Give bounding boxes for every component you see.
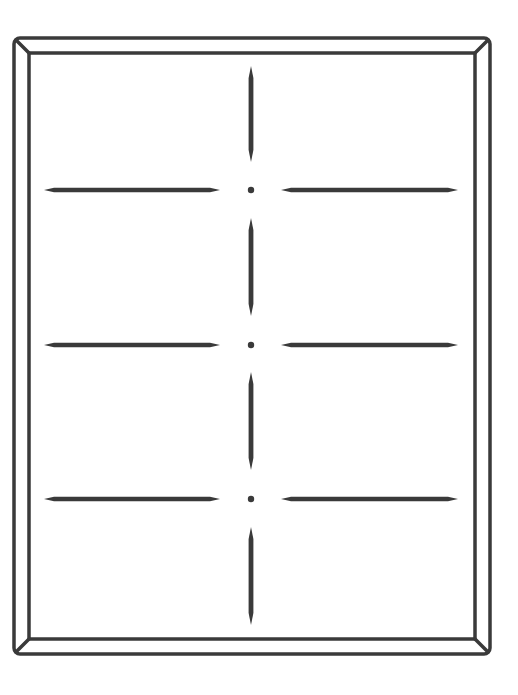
- vertical-divider: [249, 218, 254, 316]
- center-dot: [248, 496, 254, 502]
- horizontal-divider: [281, 343, 458, 347]
- center-dot: [248, 187, 254, 193]
- frame-corner-miter: [16, 40, 29, 53]
- frame-corner-miter: [475, 40, 488, 53]
- frame-corner-miter: [16, 639, 29, 652]
- horizontal-divider: [281, 497, 458, 501]
- frame-diagram: [0, 0, 518, 695]
- horizontal-divider: [44, 343, 220, 347]
- vertical-divider: [249, 527, 254, 625]
- vertical-divider: [249, 372, 254, 470]
- horizontal-divider: [281, 188, 458, 192]
- horizontal-divider: [44, 497, 220, 501]
- center-dot: [248, 342, 254, 348]
- horizontal-divider: [44, 188, 220, 192]
- dividers: [44, 66, 458, 625]
- vertical-divider: [249, 66, 254, 162]
- frame-corner-miter: [475, 639, 488, 652]
